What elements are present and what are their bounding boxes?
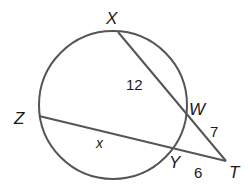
secant-zt	[39, 116, 226, 161]
point-label-w: W	[189, 100, 207, 119]
segment-label-zy: x	[95, 135, 104, 151]
segment-label-xw: 12	[126, 76, 143, 93]
secant-xt	[118, 32, 226, 161]
point-label-x: X	[105, 9, 118, 28]
point-label-t: T	[229, 163, 241, 182]
segment-label-yt: 6	[194, 164, 202, 181]
diagram-canvas: X W Z Y T 12 7 x 6	[0, 0, 250, 188]
circle	[39, 31, 187, 179]
point-label-z: Z	[13, 109, 25, 128]
segment-label-wt: 7	[210, 123, 218, 140]
point-label-y: Y	[169, 153, 182, 172]
